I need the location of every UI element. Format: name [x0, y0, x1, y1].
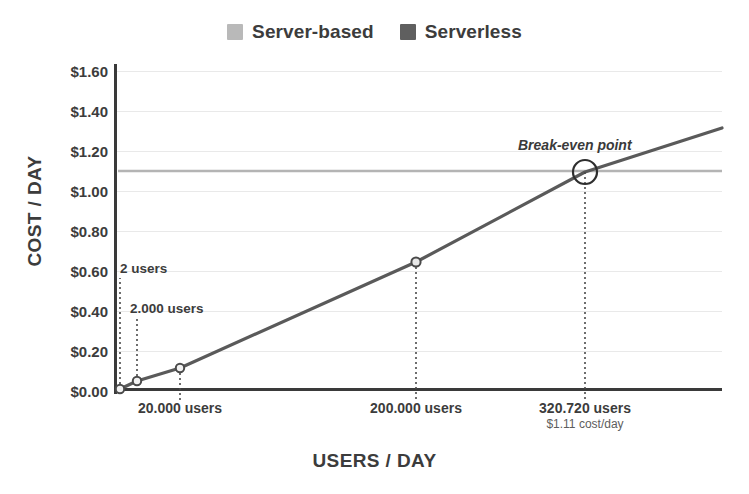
annotation-2-users: 2 users	[120, 261, 167, 277]
annotation-2000-users: 2.000 users	[130, 301, 204, 317]
chart-container: Server-based Serverless COST / DAY USERS…	[0, 0, 749, 494]
x-tick-label-200000: 200.000 users	[336, 400, 496, 416]
x-tick-label-breakeven: 320.720 users $1.11 cost/day	[505, 400, 665, 431]
x-tick-label-20000: 20.000 users	[100, 400, 260, 416]
x-tick-label-breakeven-cost: $1.11 cost/day	[505, 417, 665, 431]
series-serverless-line	[120, 128, 722, 389]
x-tick-label-20000-text: 20.000 users	[138, 400, 222, 416]
data-point-2-users	[116, 385, 124, 393]
data-point-2000-users	[133, 377, 141, 385]
data-point-200000-users	[411, 257, 420, 266]
annotation-break-even: Break-even point	[518, 137, 632, 153]
x-tick-label-breakeven-text: 320.720 users	[539, 400, 631, 416]
x-tick-label-200000-text: 200.000 users	[370, 400, 462, 416]
data-point-20000-users	[176, 364, 184, 372]
